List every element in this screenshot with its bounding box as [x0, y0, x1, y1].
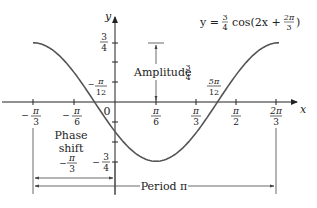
svg-text:−: − — [21, 110, 29, 120]
svg-text:6: 6 — [74, 117, 80, 127]
svg-text:π: π — [152, 106, 160, 116]
svg-text:3: 3 — [286, 23, 291, 32]
svg-text:π: π — [68, 153, 76, 163]
amplitude-value: 3 4 — [185, 63, 191, 82]
svg-text:π: π — [97, 77, 104, 86]
svg-text:cos(2x +: cos(2x + — [232, 16, 281, 29]
svg-text:y =: y = — [199, 16, 219, 29]
svg-text:π: π — [73, 106, 81, 116]
phase-shift-value: − π 3 — [59, 153, 77, 174]
svg-text:2: 2 — [233, 117, 239, 127]
x-tick-pi-3: π 3 — [191, 106, 201, 127]
svg-text:6: 6 — [153, 117, 159, 127]
svg-text:4: 4 — [103, 163, 109, 173]
x-tick-neg-pi-3: − π 3 — [21, 106, 41, 127]
x-tick-pi-2: π 2 — [231, 106, 241, 127]
svg-text:5π: 5π — [209, 77, 220, 86]
y-tick-neg-3-4: − 3 4 — [92, 152, 110, 173]
svg-text:4: 4 — [185, 73, 190, 82]
x-axis-label: x — [300, 103, 307, 116]
x-tick-neg-pi-6: − π 6 — [62, 106, 82, 127]
zero-label-neg-pi-12: − π 12 — [88, 77, 107, 97]
svg-text:12: 12 — [209, 88, 219, 97]
zero-label-5pi-12: 5π 12 — [207, 77, 221, 97]
phase-shift-label-line1: Phase — [54, 129, 87, 142]
svg-text:3: 3 — [222, 13, 227, 22]
svg-text:−: − — [92, 157, 100, 167]
y-tick-3-4: 3 4 — [100, 32, 108, 53]
svg-text:4: 4 — [222, 23, 227, 32]
y-axis-label: y — [104, 10, 112, 23]
equation-title: y = 3 4 cos(2x + 2π 3 ) — [199, 13, 300, 32]
svg-text:−: − — [62, 110, 70, 120]
cosine-graph-figure: x y − π 3 — [0, 0, 317, 208]
svg-text:12: 12 — [96, 88, 106, 97]
svg-text:3: 3 — [193, 117, 199, 127]
svg-text:3: 3 — [69, 164, 75, 174]
svg-text:π: π — [192, 106, 200, 116]
svg-text:2π: 2π — [269, 106, 283, 116]
svg-text:2π: 2π — [283, 13, 295, 22]
svg-text:π: π — [32, 106, 40, 116]
svg-text:−: − — [59, 158, 67, 168]
amplitude-label: Amplitude — [133, 66, 192, 79]
svg-text:3: 3 — [273, 117, 279, 127]
svg-text:3: 3 — [103, 152, 109, 162]
svg-text:3: 3 — [101, 32, 107, 42]
x-tick-pi-6: π 6 — [151, 106, 161, 127]
svg-text:4: 4 — [101, 43, 107, 53]
svg-text:3: 3 — [185, 63, 190, 72]
x-tick-2pi-3: 2π 3 — [269, 106, 283, 127]
svg-text:): ) — [296, 16, 300, 29]
svg-text:π: π — [232, 106, 240, 116]
svg-text:−: − — [88, 80, 95, 89]
svg-text:3: 3 — [33, 117, 39, 127]
x-tick-labels: − π 3 − π 6 π 6 π 3 π — [21, 106, 283, 127]
period-label: Period π — [141, 180, 188, 193]
